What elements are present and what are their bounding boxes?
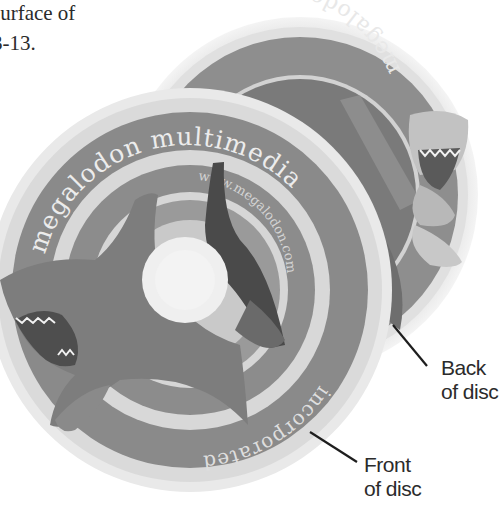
back-disc-label-line-2: of disc — [441, 380, 498, 404]
front-disc-label-line-1: Front — [364, 453, 421, 477]
front-disc: megalodon multimedia incorporated www.me… — [0, 88, 392, 492]
back-disc-label: Back of disc — [441, 356, 498, 404]
back-disc-label-line-1: Back — [441, 356, 498, 380]
disc-illustration: megalodon megalodon multimedia incorpora… — [0, 0, 504, 510]
front-disc-label: Front of disc — [364, 453, 421, 501]
front-disc-label-line-2: of disc — [364, 477, 421, 501]
